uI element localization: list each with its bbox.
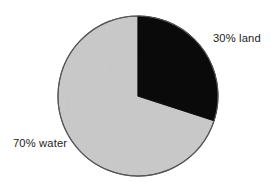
pie-label-land: 30% land (213, 32, 261, 45)
pie-label-water: 70% water (13, 137, 67, 150)
pie-chart-graphic (0, 0, 280, 192)
pie-chart-figure: 30% land 70% water (0, 0, 280, 192)
